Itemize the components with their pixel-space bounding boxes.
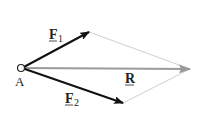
point-a-marker bbox=[18, 65, 25, 72]
svg-text:2: 2 bbox=[74, 97, 79, 108]
force-diagram: A F 1 F 2 R bbox=[0, 0, 209, 114]
construction-line-upper bbox=[89, 32, 190, 69]
label-f1: F 1 bbox=[49, 27, 63, 44]
label-r: R bbox=[125, 71, 136, 86]
svg-text:F: F bbox=[49, 27, 58, 42]
label-f2: F 2 bbox=[65, 91, 79, 108]
svg-text:R: R bbox=[125, 71, 136, 86]
point-a-label: A bbox=[15, 74, 25, 89]
svg-text:1: 1 bbox=[58, 33, 63, 44]
svg-text:F: F bbox=[65, 91, 74, 106]
resultant-vector-r bbox=[22, 68, 190, 69]
